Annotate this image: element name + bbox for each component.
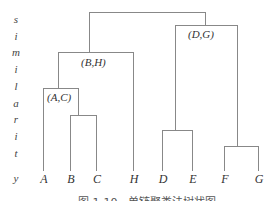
axis-letter: y	[10, 172, 22, 184]
axis-letter: r	[10, 113, 22, 125]
dendrogram-lines	[0, 0, 275, 201]
axis-letter: i	[10, 63, 22, 75]
cluster-label-b-h: (B,H)	[81, 56, 106, 68]
axis-letter: i	[10, 30, 22, 42]
cluster-label-d-g: (D,G)	[188, 28, 214, 40]
leaf-label-d: D	[156, 173, 170, 185]
cluster-label-a-c: (A,C)	[47, 91, 71, 103]
leaf-label-g: G	[252, 173, 266, 185]
axis-letter: i	[10, 130, 22, 142]
axis-letter: a	[10, 97, 22, 109]
leaf-label-e: E	[186, 173, 200, 185]
leaf-label-h: H	[127, 173, 141, 185]
dendrogram: s i m i l a r i t y (A,C) (B,H) (D,G) A …	[0, 0, 275, 201]
leaf-label-c: C	[90, 173, 104, 185]
leaf-label-b: B	[64, 173, 78, 185]
axis-letter: l	[10, 80, 22, 92]
leaf-label-a: A	[37, 173, 51, 185]
leaf-label-f: F	[218, 173, 232, 185]
axis-letter: m	[10, 46, 22, 58]
figure-caption: 图 1-10 单链聚类法树状图	[78, 193, 216, 201]
axis-letter: s	[10, 13, 22, 25]
axis-letter: t	[10, 147, 22, 159]
